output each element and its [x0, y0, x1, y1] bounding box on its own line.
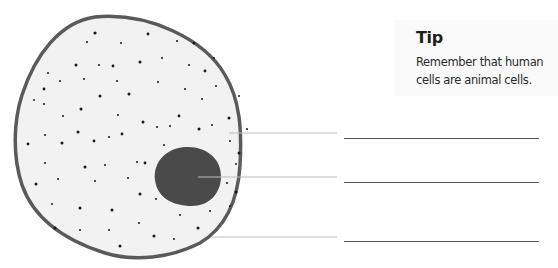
answer-line-nucleus[interactable]: [344, 182, 539, 183]
tip-title: Tip: [416, 28, 443, 47]
cell-membrane: [15, 16, 240, 257]
answer-line-membrane[interactable]: [344, 241, 539, 242]
tip-body: Remember that human cells are animal cel…: [416, 53, 558, 89]
answer-line-cytoplasm[interactable]: [344, 138, 539, 139]
